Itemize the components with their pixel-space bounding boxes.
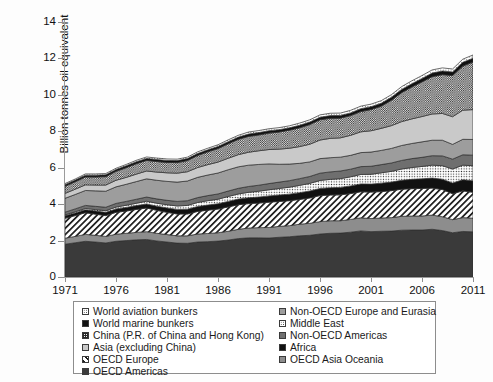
y-axis-ticks: 02468101214 xyxy=(0,0,56,300)
legend-item[interactable]: World aviation bunkers xyxy=(82,306,287,317)
legend-item[interactable]: Non-OECD Americas xyxy=(279,330,439,341)
x-tick-label: 1986 xyxy=(198,284,238,296)
y-tick-label: 14 xyxy=(10,16,56,26)
legend-item[interactable]: OECD Europe xyxy=(82,354,287,365)
legend-swatch xyxy=(279,356,286,363)
y-tick-label: 10 xyxy=(10,89,56,99)
legend-swatch xyxy=(82,320,89,327)
legend-label: OECD Americas xyxy=(93,366,168,377)
legend-item[interactable]: OECD Asia Oceania xyxy=(279,354,439,365)
y-tick-label: 0 xyxy=(10,271,56,281)
legend-swatch xyxy=(82,344,89,351)
legend-swatch xyxy=(82,308,89,315)
y-tick-label: 12 xyxy=(10,52,56,62)
legend-item[interactable]: World marine bunkers xyxy=(82,318,287,329)
legend-label: World aviation bunkers xyxy=(93,306,198,317)
legend-column-left: World aviation bunkersWorld marine bunke… xyxy=(82,306,287,378)
legend-swatch xyxy=(279,344,286,351)
legend-swatch xyxy=(279,320,286,327)
legend-item[interactable]: Middle East xyxy=(279,318,439,329)
legend-item[interactable]: Non-OECD Europe and Eurasia xyxy=(279,306,439,317)
legend-label: OECD Europe xyxy=(93,354,159,365)
chart-screenshot: Billion tonnes oil equivalent 0246810121… xyxy=(0,0,493,382)
legend-item[interactable]: OECD Americas xyxy=(82,366,287,377)
legend-swatch xyxy=(82,332,89,339)
stacked-area-plot xyxy=(65,22,473,277)
legend: World aviation bunkersWorld marine bunke… xyxy=(73,301,436,374)
legend-label: Non-OECD Europe and Eurasia xyxy=(290,306,436,317)
legend-label: Africa xyxy=(290,342,316,353)
legend-label: Middle East xyxy=(290,318,344,329)
legend-item[interactable]: Asia (excluding China) xyxy=(82,342,287,353)
legend-label: World marine bunkers xyxy=(93,318,194,329)
legend-label: Asia (excluding China) xyxy=(93,342,196,353)
y-tick-label: 4 xyxy=(10,198,56,208)
series-group xyxy=(65,55,473,277)
legend-item[interactable]: Africa xyxy=(279,342,439,353)
legend-column-right: Non-OECD Europe and EurasiaMiddle EastNo… xyxy=(279,306,439,366)
legend-label: Non-OECD Americas xyxy=(290,330,387,341)
plot-svg xyxy=(65,22,473,277)
y-tick-label: 2 xyxy=(10,235,56,245)
legend-label: China (P.R. of China and Hong Kong) xyxy=(93,330,264,341)
x-axis-line xyxy=(64,277,474,278)
y-tick-label: 8 xyxy=(10,125,56,135)
x-tick-label: 1996 xyxy=(300,284,340,296)
legend-swatch xyxy=(82,368,89,375)
legend-item[interactable]: China (P.R. of China and Hong Kong) xyxy=(82,330,287,341)
legend-swatch xyxy=(82,356,89,363)
x-tick-label: 2006 xyxy=(402,284,442,296)
x-tick-label: 2001 xyxy=(351,284,391,296)
legend-swatch xyxy=(279,308,286,315)
x-tick-label: 1981 xyxy=(147,284,187,296)
x-tick-label: 1976 xyxy=(96,284,136,296)
x-tick-label: 1991 xyxy=(249,284,289,296)
legend-swatch xyxy=(279,332,286,339)
y-tick-label: 6 xyxy=(10,162,56,172)
x-tick-label: 2011 xyxy=(453,284,493,296)
x-tick-label: 1971 xyxy=(45,284,85,296)
legend-label: OECD Asia Oceania xyxy=(290,354,383,365)
